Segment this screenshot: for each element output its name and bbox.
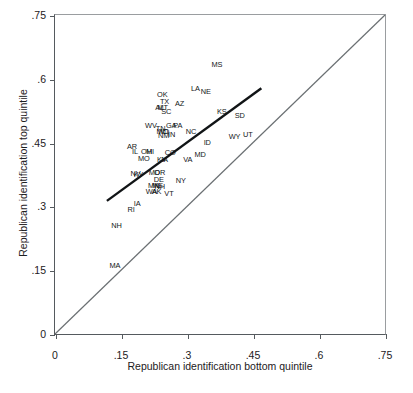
state-point-label: LA xyxy=(191,86,200,93)
state-point-label: MO xyxy=(138,155,150,162)
y-tick-label: .15 xyxy=(31,264,46,276)
state-point-label: SD xyxy=(235,113,245,120)
state-point-label: KS xyxy=(217,109,227,116)
scatter-plot-figure: 0.15.3.45.6.75 MSLANEOKTXAZALMTSCKSSDWVG… xyxy=(0,0,413,393)
state-point-label: KY xyxy=(134,172,144,179)
state-point-label: ID xyxy=(204,140,211,147)
state-point-label: NH xyxy=(111,222,121,229)
y-tick-mark xyxy=(50,271,55,272)
y-tick-label: .3 xyxy=(37,200,46,212)
y-tick-label: 0 xyxy=(40,328,46,340)
state-point-label: AZ xyxy=(175,101,184,108)
state-point-label: NC xyxy=(186,129,196,136)
plot-area: MSLANEOKTXAZALMTSCKSSDWVGAPATNMONDNCINNM… xyxy=(55,15,385,334)
x-tick-mark xyxy=(320,334,321,339)
x-tick-mark xyxy=(254,334,255,339)
state-point-label: VA xyxy=(183,157,192,164)
x-tick-mark xyxy=(56,334,57,339)
state-point-label: MD xyxy=(195,151,206,158)
state-point-label: IA xyxy=(161,157,168,164)
plot-frame: MSLANEOKTXAZALMTSCKSSDWVGAPATNMONDNCINNM… xyxy=(54,14,386,335)
y-tick-mark xyxy=(50,335,55,336)
state-point-label: AK xyxy=(152,188,162,195)
y-tick-mark xyxy=(50,207,55,208)
state-point-label: VT xyxy=(164,190,173,197)
x-axis-title: Republican identification bottom quintil… xyxy=(54,360,386,372)
state-point-label: MS xyxy=(211,61,222,68)
x-tick-mark xyxy=(122,334,123,339)
x-tick-mark xyxy=(188,334,189,339)
state-point-label: WY xyxy=(229,134,241,141)
state-point-label: IA xyxy=(134,201,141,208)
state-point-label: SC xyxy=(161,109,171,116)
y-tick-label: .6 xyxy=(37,73,46,85)
y-tick-mark xyxy=(50,144,55,145)
state-point-label: NY xyxy=(176,177,186,184)
state-point-label: NM xyxy=(158,133,169,140)
y-axis-title: Republican identification top quintile xyxy=(17,8,29,338)
state-point-label: RI xyxy=(128,206,135,213)
x-tick-mark xyxy=(386,334,387,339)
state-point-label: PA xyxy=(173,122,182,129)
x-axis-tick-labels: 0.15.3.45.6.75 xyxy=(54,340,386,360)
state-point-label: NE xyxy=(201,89,211,96)
state-point-label: UT xyxy=(243,131,253,138)
y-tick-mark xyxy=(50,16,55,17)
y-tick-label: .45 xyxy=(31,137,46,149)
y-tick-label: .75 xyxy=(31,9,46,21)
state-point-label: MA xyxy=(109,262,120,269)
y-tick-mark xyxy=(50,80,55,81)
